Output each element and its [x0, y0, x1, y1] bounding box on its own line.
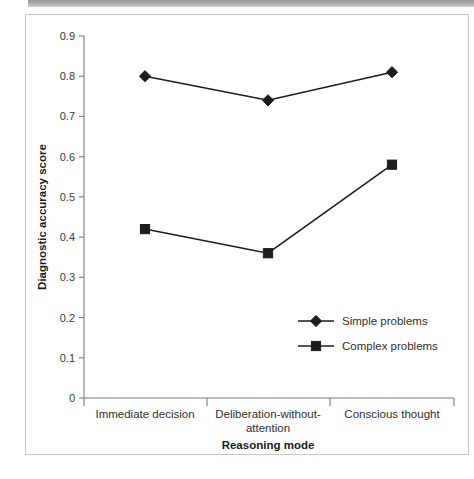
data-point-marker: [140, 225, 149, 234]
y-axis-title: Diagnostic accuracy score: [36, 144, 48, 290]
x-axis-title: Reasoning mode: [222, 439, 315, 451]
y-tick-label: 0.2: [60, 312, 75, 324]
y-tick-label: 0.9: [60, 30, 75, 42]
x-category-label-deliberation-line1: Deliberation-without-: [215, 408, 321, 420]
y-tick-label: 0: [69, 392, 75, 404]
data-point-marker: [262, 95, 273, 106]
legend-label-simple-problems: Simple problems: [342, 315, 428, 327]
y-tick-label: 0.8: [60, 70, 75, 82]
data-point-marker: [386, 67, 397, 78]
y-axis-ticks: 0.9 0.8 0.7 0.6 0.5 0.4 0.3 0.2 0.1 0: [60, 30, 84, 404]
y-tick-label: 0.1: [60, 352, 75, 364]
scan-artifact-bar: [28, 0, 474, 7]
x-category-label-conscious-thought: Conscious thought: [344, 408, 440, 420]
legend: Simple problems Complex problems: [298, 315, 438, 352]
x-category-label-deliberation-line2: attention: [246, 422, 290, 434]
y-tick-label: 0.5: [60, 191, 75, 203]
series-complex-problems: [140, 160, 396, 258]
series-line-complex-problems: [145, 165, 392, 254]
y-tick-label: 0.6: [60, 151, 75, 163]
y-tick-label: 0.7: [60, 110, 75, 122]
data-point-marker: [139, 71, 150, 82]
legend-marker-square: [311, 341, 320, 350]
series-simple-problems: [139, 67, 397, 106]
figure-frame: 0.9 0.8 0.7 0.6 0.5 0.4 0.3 0.2 0.1 0: [25, 14, 469, 455]
legend-marker-diamond: [310, 315, 321, 326]
x-axis-ticks: [84, 398, 454, 406]
data-point-marker: [387, 160, 396, 169]
data-point-marker: [263, 249, 272, 258]
y-tick-label: 0.3: [60, 271, 75, 283]
line-chart: 0.9 0.8 0.7 0.6 0.5 0.4 0.3 0.2 0.1 0: [26, 15, 468, 454]
legend-label-complex-problems: Complex problems: [342, 340, 438, 352]
x-category-label-immediate-decision: Immediate decision: [95, 408, 194, 420]
y-tick-label: 0.4: [60, 231, 75, 243]
